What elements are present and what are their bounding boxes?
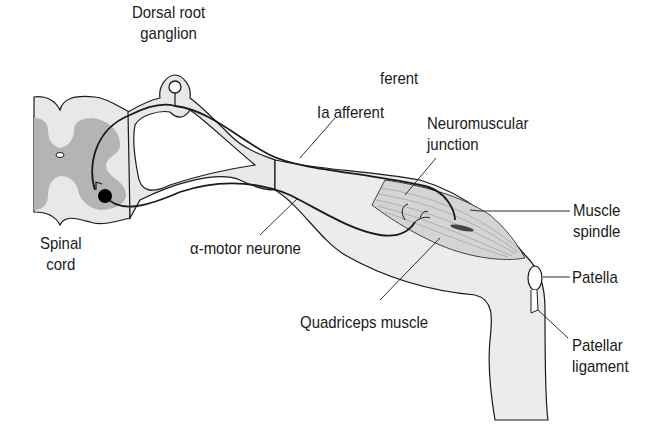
motor-neurone-cell-body [98, 189, 112, 203]
patella-shape [528, 266, 542, 290]
reflex-arc-diagram: Dorsal root ganglion Spinal cord ferent … [0, 0, 655, 442]
central-canal [56, 153, 64, 158]
dorsal-root-ganglion-label: Dorsal root ganglion [132, 2, 205, 44]
patella-label: Patella [572, 267, 618, 288]
patellar-ligament-label: Patellar ligament [572, 335, 629, 377]
quadriceps-muscle-label: Quadriceps muscle [300, 312, 428, 333]
spinal-cord-label: Spinal cord [40, 233, 82, 275]
muscle-spindle-label: Muscle spindle [573, 200, 620, 242]
ia-afferent-label: Ia afferent [317, 102, 384, 123]
efferent-label-fragment: ferent [380, 68, 418, 89]
diagram-artwork [0, 0, 655, 442]
neuromuscular-junction-label: Neuromuscular junction [427, 113, 528, 155]
ganglion-cell-body [169, 81, 181, 93]
alpha-motor-neurone-label: α-motor neurone [190, 238, 301, 259]
